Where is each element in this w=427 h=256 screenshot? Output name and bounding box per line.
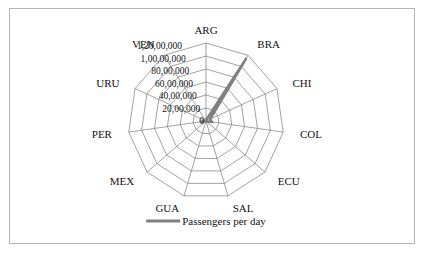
category-label-bra: BRA bbox=[257, 38, 280, 50]
axis-spoke bbox=[206, 121, 265, 172]
category-label-arg: ARG bbox=[194, 24, 217, 36]
radial-tick-label: 40,00,000 bbox=[159, 91, 197, 101]
category-label-per: PER bbox=[92, 128, 113, 140]
axis-spoke bbox=[129, 121, 206, 132]
radar-series bbox=[201, 58, 247, 122]
axis-spoke bbox=[147, 121, 206, 172]
radial-tick-label: 80,00,000 bbox=[151, 66, 189, 76]
category-label-chi: CHI bbox=[292, 77, 311, 89]
category-label-ecu: ECU bbox=[278, 175, 300, 187]
series-polygon bbox=[201, 58, 247, 122]
category-label-sal: SAL bbox=[233, 202, 254, 214]
category-label-gua: GUA bbox=[155, 202, 179, 214]
radial-tick-label: 0 bbox=[199, 116, 204, 126]
legend-label: Passengers per day bbox=[182, 215, 266, 227]
category-label-mex: MEX bbox=[110, 175, 135, 187]
chart-legend[interactable]: Passengers per day bbox=[146, 215, 266, 227]
radial-tick-label: 1,00,00,000 bbox=[141, 54, 186, 64]
radar-chart: 020,00,00040,00,00060,00,00080,00,0001,0… bbox=[10, 9, 414, 243]
radial-tick-labels: 020,00,00040,00,00060,00,00080,00,0001,0… bbox=[137, 41, 204, 126]
radial-tick-label: 20,00,000 bbox=[162, 104, 200, 114]
category-label-ven: VEN bbox=[132, 38, 155, 50]
chart-figure: 020,00,00040,00,00060,00,00080,00,0001,0… bbox=[9, 8, 415, 244]
radial-tick-label: 60,00,000 bbox=[155, 79, 193, 89]
radar-chart-svg: 020,00,00040,00,00060,00,00080,00,0001,0… bbox=[10, 9, 416, 245]
category-label-uru: URU bbox=[96, 77, 119, 89]
axis-spoke bbox=[206, 121, 283, 132]
category-label-col: COL bbox=[300, 128, 322, 140]
